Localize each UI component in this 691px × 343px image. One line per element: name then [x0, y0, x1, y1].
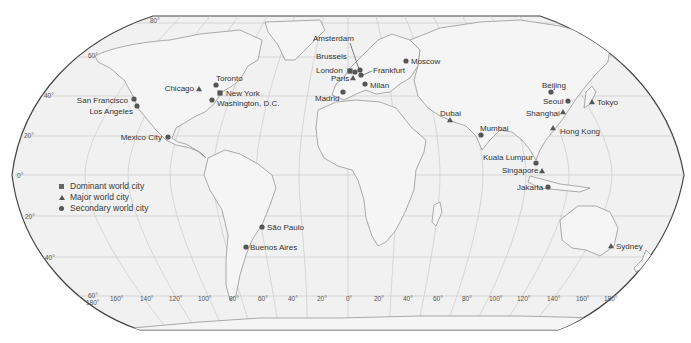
legend-label: Secondary world city — [70, 203, 148, 214]
city-label: Tokyo — [597, 98, 618, 107]
city-label: Shanghai — [526, 109, 560, 118]
circle-icon — [243, 244, 248, 249]
square-icon — [217, 90, 222, 95]
lon-label: 20° — [317, 295, 327, 302]
lat-label: 20° — [24, 132, 34, 139]
lon-label: 120° — [169, 295, 183, 302]
circle-icon — [478, 132, 483, 137]
city-label: Madrid — [315, 94, 339, 103]
circle-icon — [209, 97, 214, 102]
circle-icon — [134, 103, 139, 108]
city-label: São Paulo — [267, 223, 304, 232]
circle-icon — [58, 203, 65, 214]
city-s-o-paulo: São Paulo — [259, 223, 304, 232]
lon-label: 80° — [229, 295, 239, 302]
square-icon — [347, 68, 352, 73]
legend-label: Dominant world city — [70, 181, 144, 192]
city-san-francisco: San Francisco — [77, 96, 137, 105]
city-label: Amsterdam — [313, 34, 354, 43]
legend: Dominant world city Major world city Sec… — [58, 181, 148, 214]
triangle-icon — [58, 192, 65, 203]
lat-label: 40° — [44, 92, 54, 99]
city-label: Los Angeles — [89, 107, 133, 116]
lat-label: 80° — [150, 17, 160, 24]
circle-icon — [548, 89, 553, 94]
city-label: Frankfurt — [373, 66, 406, 75]
city-label: Toronto — [216, 74, 243, 83]
lon-label: 140° — [140, 295, 154, 302]
circle-icon — [362, 81, 367, 86]
city-label: Kuala Lumpur — [483, 153, 533, 162]
legend-label: Major world city — [70, 192, 129, 203]
circle-icon — [131, 96, 136, 101]
lon-label: 60° — [433, 295, 443, 302]
circle-icon — [565, 98, 570, 103]
lon-label: 160° — [110, 295, 124, 302]
lon-label: 40° — [403, 295, 413, 302]
lon-label: 0° — [346, 295, 353, 302]
lon-label: 60° — [258, 295, 268, 302]
lon-label: 80° — [462, 295, 472, 302]
circle-icon — [165, 134, 170, 139]
city-label: Seoul — [543, 97, 564, 106]
city-label: Sydney — [616, 242, 643, 251]
city-label: Buenos Aires — [250, 243, 297, 252]
circle-icon — [545, 184, 550, 189]
lon-label: 180° — [604, 295, 618, 302]
lon-label: 20° — [374, 295, 384, 302]
lon-label: 160° — [576, 295, 590, 302]
legend-item-dominant: Dominant world city — [58, 181, 148, 192]
city-label: Mexico City — [121, 133, 162, 142]
city-label: Hong Kong — [560, 127, 600, 136]
lon-label: 100° — [198, 295, 212, 302]
city-label: Chicago — [165, 84, 195, 93]
city-label: Paris — [331, 74, 349, 83]
lat-label: 20° — [25, 213, 35, 220]
city-label: Washington, D.C. — [217, 99, 279, 108]
lat-label: 40° — [45, 254, 55, 261]
city-label: Singapore — [502, 166, 539, 175]
legend-item-major: Major world city — [58, 192, 148, 203]
city-washington-d-c-: Washington, D.C. — [209, 97, 279, 108]
world-map: 80° 60° 40° 20° 0° 20° 40° 60° 180° 160°… — [0, 0, 691, 343]
legend-item-secondary: Secondary world city — [58, 203, 148, 214]
circle-icon — [213, 82, 218, 87]
city-label: Moscow — [411, 57, 441, 66]
city-label: Brussels — [316, 52, 347, 61]
circle-icon — [533, 160, 538, 165]
circle-icon — [357, 67, 362, 72]
circle-icon — [259, 224, 264, 229]
lon-label: 40° — [288, 295, 298, 302]
city-buenos-aires: Buenos Aires — [243, 243, 297, 252]
lon-label: 100° — [489, 295, 503, 302]
city-label: Beijing — [542, 81, 566, 90]
circle-icon — [358, 72, 363, 77]
lon-label: 120° — [517, 295, 531, 302]
city-label: Milan — [370, 81, 389, 90]
circle-icon — [340, 89, 345, 94]
lon-label: 140° — [547, 295, 561, 302]
city-label: Jakarta — [517, 183, 544, 192]
circle-icon — [403, 58, 408, 63]
lat-label: 60° — [88, 292, 98, 299]
square-icon — [58, 181, 65, 192]
city-label: New York — [226, 89, 261, 98]
city-label: Dubai — [440, 109, 461, 118]
circle-icon — [352, 69, 357, 74]
lat-label: 60° — [88, 52, 98, 59]
lon-label: 180° — [86, 299, 100, 306]
city-label: San Francisco — [77, 96, 129, 105]
city-label: Mumbai — [480, 124, 509, 133]
lat-label: 0° — [17, 172, 24, 179]
